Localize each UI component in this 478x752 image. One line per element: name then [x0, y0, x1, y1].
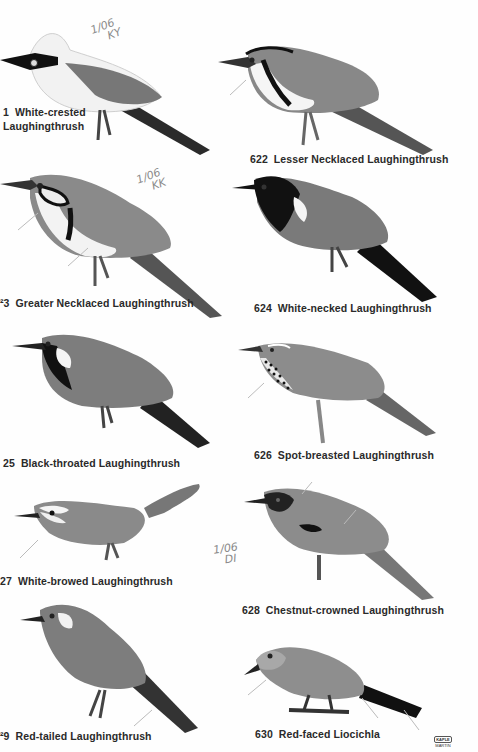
illustration-black-throated-laughingthrush [12, 328, 212, 448]
illustration-red-tailed-laughingthrush [20, 598, 200, 733]
caption-spot-breasted: 626Spot-breasted Laughingthrush [254, 449, 434, 461]
illustration-lesser-necklaced-laughingthrush [218, 40, 438, 155]
caption-white-crested: 1White-crested Laughingthrush [3, 105, 86, 133]
caption-chestnut-crowned: 628Chestnut-crowned Laughingthrush [242, 604, 444, 616]
illustration-white-necked-laughingthrush [232, 172, 442, 302]
caption-lesser-necklaced: 622Lesser Necklaced Laughingthrush [250, 153, 448, 165]
caption-white-necked: 624White-necked Laughingthrush [254, 302, 432, 314]
illustration-white-browed-laughingthrush [14, 478, 204, 568]
caption-white-browed: 27White-browed Laughingthrush [0, 575, 173, 587]
illustration-chestnut-crowned-laughingthrush [244, 480, 439, 600]
caption-red-faced-liocichla: 630Red-faced Liocichla [255, 728, 380, 740]
illustration-spot-breasted-laughingthrush [238, 338, 438, 448]
handwritten-note: 1/06 DI [213, 541, 241, 566]
field-guide-plate: 1/06 KY 1White-crested Laughingthrush 62… [0, 0, 478, 752]
illustration-greater-necklaced-laughingthrush [0, 168, 225, 318]
caption-greater-necklaced: ²3Greater Necklaced Laughingthrush [0, 297, 194, 309]
publisher-logo: KAPLE MARTIN [434, 736, 452, 748]
illustration-red-faced-liocichla [244, 640, 424, 735]
caption-black-throated: 25Black-throated Laughingthrush [3, 457, 180, 469]
caption-red-tailed: ²9Red-tailed Laughingthrush [0, 730, 152, 742]
